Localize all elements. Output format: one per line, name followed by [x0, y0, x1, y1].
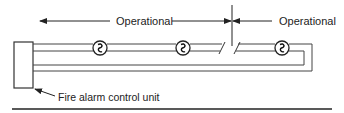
upper-wire-pair: [33, 44, 312, 71]
right-span-label: Operational: [279, 16, 336, 27]
left-span-label: Operational: [116, 16, 173, 27]
control-unit-leader-arrow: [35, 89, 55, 96]
device-2-icon: [176, 41, 190, 55]
control-unit-box: [14, 42, 33, 88]
wire-break-icon: [219, 42, 240, 54]
device-3-icon: [275, 41, 289, 55]
control-unit-label: Fire alarm control unit: [58, 92, 160, 103]
device-1-icon: [93, 41, 107, 55]
